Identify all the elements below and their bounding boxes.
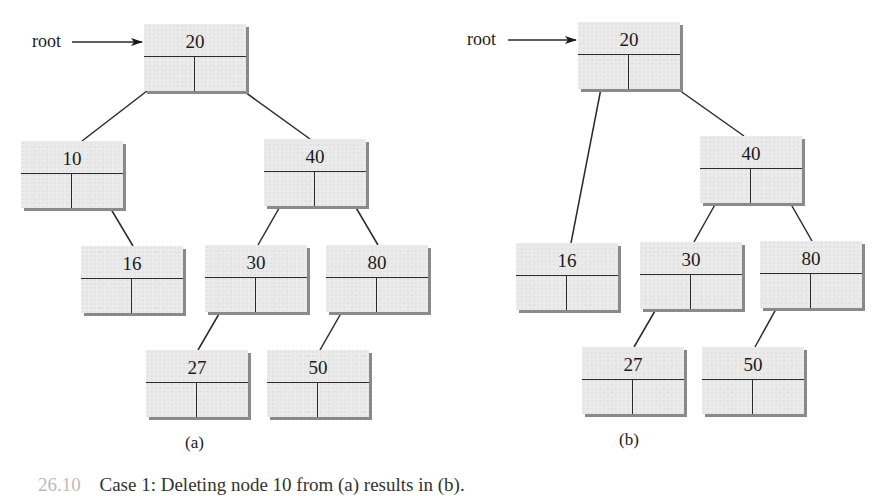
node-value: 27 [582,347,684,380]
node-value: 27 [146,350,248,383]
node-left-pointer [21,174,72,208]
node-right-pointer [691,275,742,309]
tree-node-20-b: 20 [578,22,680,89]
node-left-pointer [578,55,629,89]
tree-node-80-a: 80 [326,245,428,312]
node-value: 30 [640,242,742,275]
node-value: 16 [516,243,618,276]
node-right-pointer [197,383,248,417]
tree-node-40-b: 40 [700,136,802,203]
node-left-pointer [516,276,567,310]
tree-node-20-a: 20 [144,24,246,91]
node-right-pointer [629,55,680,89]
node-left-pointer [81,279,132,313]
tree-node-50-b: 50 [702,347,804,414]
node-right-pointer [315,172,366,206]
root-label-a: root [32,31,61,52]
edge-20-16-b [571,73,604,243]
node-left-pointer [582,380,633,414]
tree-node-80-b: 80 [760,241,862,308]
tree-node-30-a: 30 [205,245,307,312]
node-value: 10 [21,141,123,174]
caption-text: Case 1: Deleting node 10 from (a) result… [100,474,465,495]
node-value: 16 [81,246,183,279]
node-right-pointer [318,383,369,417]
node-left-pointer [264,172,315,206]
tree-node-10-a: 10 [21,141,123,208]
node-left-pointer [702,380,753,414]
node-value: 30 [205,245,307,278]
node-value: 50 [267,350,369,383]
node-right-pointer [751,169,802,203]
node-left-pointer [326,278,377,312]
tree-node-16-a: 16 [81,246,183,313]
root-label-b: root [467,29,496,50]
node-left-pointer [146,383,197,417]
tree-node-40-a: 40 [264,139,366,206]
node-right-pointer [753,380,804,414]
node-value: 40 [700,136,802,169]
node-right-pointer [256,278,307,312]
node-left-pointer [640,275,691,309]
node-value: 80 [760,241,862,274]
node-right-pointer [811,274,862,308]
node-left-pointer [760,274,811,308]
node-left-pointer [205,278,256,312]
node-right-pointer [377,278,428,312]
figure-caption: 26.10 Case 1: Deleting node 10 from (a) … [38,474,465,496]
node-left-pointer [267,383,318,417]
node-right-pointer [132,279,183,313]
node-value: 40 [264,139,366,172]
tree-node-16-b: 16 [516,243,618,310]
tree-node-50-a: 50 [267,350,369,417]
node-value: 50 [702,347,804,380]
tree-a-label: (a) [185,433,204,453]
node-left-pointer [700,169,751,203]
node-value: 20 [144,24,246,57]
tree-node-30-b: 30 [640,242,742,309]
node-value: 80 [326,245,428,278]
figure-number: 26.10 [38,474,81,495]
node-right-pointer [567,276,618,310]
tree-b-label: (b) [619,430,639,450]
tree-node-27-b: 27 [582,347,684,414]
node-left-pointer [144,57,195,91]
node-value: 20 [578,22,680,55]
node-right-pointer [195,57,246,91]
node-right-pointer [633,380,684,414]
node-right-pointer [72,174,123,208]
tree-node-27-a: 27 [146,350,248,417]
